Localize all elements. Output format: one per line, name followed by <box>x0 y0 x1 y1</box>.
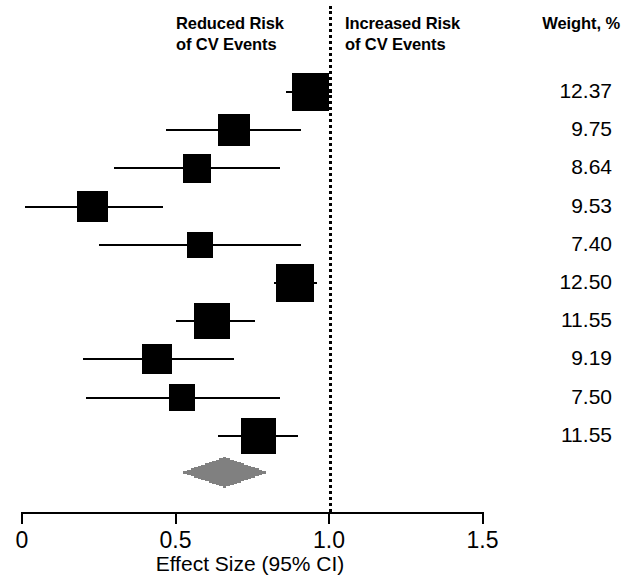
weight-value: 9.19 <box>498 346 612 370</box>
study-row <box>0 263 500 303</box>
weight-value: 12.50 <box>498 270 612 294</box>
effect-size-marker <box>77 191 108 222</box>
study-row <box>0 378 500 418</box>
x-axis: 00.51.01.5 <box>0 512 500 532</box>
study-row <box>0 301 500 341</box>
study-row <box>0 339 500 379</box>
effect-size-marker <box>194 303 230 339</box>
effect-size-marker <box>276 264 314 302</box>
weight-column-header: Weight, % <box>498 13 620 34</box>
study-row <box>0 110 500 150</box>
x-axis-line <box>22 512 483 514</box>
weight-value: 9.53 <box>498 194 612 218</box>
plot-area <box>0 0 500 520</box>
weight-value: 12.37 <box>498 79 612 103</box>
x-axis-tick <box>21 512 23 524</box>
effect-size-marker <box>241 418 277 454</box>
effect-size-marker <box>183 154 212 183</box>
effect-size-marker <box>142 344 172 374</box>
weight-value: 11.55 <box>498 423 612 447</box>
study-row <box>0 225 500 265</box>
x-axis-tick-label: 1.0 <box>289 526 369 554</box>
summary-diamond-slice <box>223 486 227 488</box>
weight-value: 7.40 <box>498 232 612 256</box>
x-axis-title: Effect Size (95% CI) <box>0 551 500 576</box>
weight-value: 11.55 <box>498 308 612 332</box>
study-row <box>0 187 500 227</box>
forest-plot-figure: Reduced Risk of CV Events Increased Risk… <box>0 0 629 580</box>
study-row <box>0 72 500 112</box>
effect-size-marker <box>292 73 330 111</box>
x-axis-tick <box>482 512 484 524</box>
weight-value: 7.50 <box>498 385 612 409</box>
x-axis-tick-label: 1.5 <box>443 526 523 554</box>
effect-size-marker <box>218 114 250 146</box>
study-row <box>0 416 500 456</box>
weight-value: 9.75 <box>498 117 612 141</box>
effect-size-marker <box>187 232 213 258</box>
weight-value: 8.64 <box>498 155 612 179</box>
x-axis-tick <box>328 512 330 524</box>
x-axis-tick-label: 0 <box>0 526 62 554</box>
x-axis-tick-label: 0.5 <box>136 526 216 554</box>
x-axis-tick <box>175 512 177 524</box>
study-row <box>0 148 500 188</box>
effect-size-marker <box>169 384 195 410</box>
